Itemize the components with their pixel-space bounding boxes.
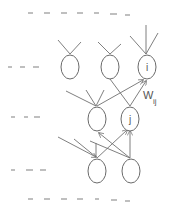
edges-to-middle-layer — [97, 130, 130, 158]
top-ellipsis — [28, 13, 130, 15]
node-i-label: i — [146, 62, 148, 73]
node-middle-left — [88, 107, 106, 131]
node-j-label: j — [128, 114, 131, 125]
node-bottom-left — [88, 159, 106, 183]
node-top-left — [61, 55, 79, 79]
network-diagram: i j W ij — [0, 0, 169, 206]
bottom-left-incoming-edges — [58, 137, 130, 158]
node-top-middle — [101, 55, 119, 79]
edges-to-node-i — [97, 79, 146, 106]
node-bottom-right — [122, 159, 140, 183]
top-layer-incoming-edges — [58, 25, 158, 54]
bottom-ellipsis — [28, 199, 130, 201]
middle-left-incoming-edges — [66, 90, 104, 106]
weight-label-subscript: ij — [153, 97, 157, 106]
